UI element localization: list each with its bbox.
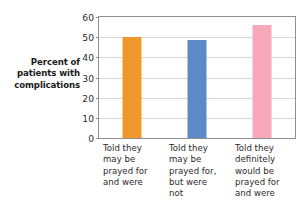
x-axis-category-label-line: would be bbox=[235, 166, 294, 177]
x-axis-category-label-line: prayed for bbox=[235, 177, 294, 188]
x-axis-category-label-line: Told they bbox=[103, 143, 162, 154]
bar-told-definitely-would-be-prayed-for-and-were bbox=[253, 25, 272, 138]
x-axis-category-label-line: prayed for bbox=[103, 166, 162, 177]
x-axis-category-label-line: definitely bbox=[235, 154, 294, 165]
bar-chart-figure: Percent of patients with complications 0… bbox=[0, 0, 306, 212]
x-axis-category-label-line: but were bbox=[169, 177, 228, 188]
x-axis-category-label-line: may be bbox=[103, 154, 162, 165]
x-axis-category-label-line: Told they bbox=[169, 143, 228, 154]
bar-slot bbox=[230, 17, 295, 138]
x-axis-category-label-line: may be bbox=[169, 154, 228, 165]
x-axis-category-label-line: Told they bbox=[235, 143, 294, 154]
bar-told-may-be-prayed-for-but-were-not bbox=[187, 40, 206, 138]
x-axis-category-label-line: prayed for, bbox=[169, 166, 228, 177]
bar-slot bbox=[99, 17, 164, 138]
x-axis-category-labels: Told theymay beprayed forand wereTold th… bbox=[98, 143, 296, 199]
bar-series bbox=[99, 17, 295, 138]
bar-slot bbox=[164, 17, 229, 138]
y-axis-title-line-2: patients with bbox=[2, 68, 80, 79]
y-tick-mark bbox=[96, 138, 99, 139]
x-axis-category-label-line: not bbox=[169, 188, 228, 199]
y-axis-title-line-3: complications bbox=[2, 80, 80, 91]
plot-area: 0102030405060 bbox=[98, 16, 296, 139]
y-axis-title-line-1: Percent of bbox=[2, 57, 80, 68]
x-axis-category-label: Told theymay beprayed forand were bbox=[98, 143, 164, 199]
x-axis-category-label-line: and were bbox=[103, 177, 162, 188]
x-axis-category-label: Told theydefinitelywould beprayed forand… bbox=[230, 143, 296, 199]
bar-told-may-be-prayed-for-and-were bbox=[122, 37, 141, 138]
y-axis-title: Percent of patients with complications bbox=[2, 57, 80, 91]
x-axis-category-label-line: and were bbox=[235, 188, 294, 199]
x-axis-category-label: Told theymay beprayed for,but werenot bbox=[164, 143, 230, 199]
